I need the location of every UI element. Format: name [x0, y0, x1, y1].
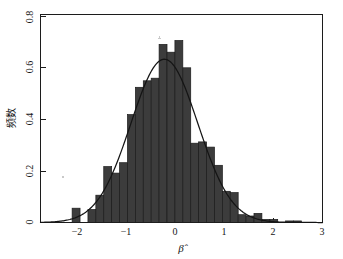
- x-tick-label-2: 0: [173, 226, 178, 237]
- x-tick-label-5: 3: [320, 226, 325, 237]
- histogram-bar: [222, 191, 230, 222]
- y-axis-title: 频数: [5, 108, 17, 128]
- histogram-bar: [199, 142, 207, 223]
- y-tick-label-1: 0.2: [24, 165, 35, 178]
- histogram-bar: [191, 143, 199, 222]
- y-tick-label-4: 0.8: [24, 11, 35, 24]
- histogram-bar: [238, 215, 246, 223]
- x-tick-label-3: 1: [222, 226, 227, 237]
- histogram-bar: [214, 165, 222, 222]
- histogram-bar: [120, 163, 128, 223]
- y-tick-label-3: 0.6: [24, 61, 35, 74]
- histogram-bar: [88, 210, 96, 223]
- y-tick-label-0: 0: [24, 220, 35, 225]
- x-tick-label-4: 2: [271, 226, 276, 237]
- x-tick-label-0: −2: [72, 226, 83, 237]
- speck-2: [159, 36, 160, 39]
- speck-3: [62, 176, 64, 178]
- histogram-bar: [72, 208, 80, 222]
- y-tick-label-2: 0.4: [24, 113, 35, 126]
- x-tick-label-1: −1: [121, 226, 132, 237]
- histogram-bar: [143, 81, 151, 223]
- histogram-figure: 0 0.2 0.4 0.6 0.8 频数 −2 −1 0 1 2 3 β̂: [0, 0, 343, 259]
- histogram-bar: [151, 78, 159, 222]
- histogram-bar: [112, 173, 120, 222]
- histogram-bar: [96, 195, 104, 222]
- chart-canvas: 0 0.2 0.4 0.6 0.8 频数 −2 −1 0 1 2 3 β̂: [0, 0, 343, 259]
- histogram-bar: [159, 44, 167, 222]
- histogram-bar: [167, 52, 175, 222]
- histogram-bar: [104, 167, 112, 223]
